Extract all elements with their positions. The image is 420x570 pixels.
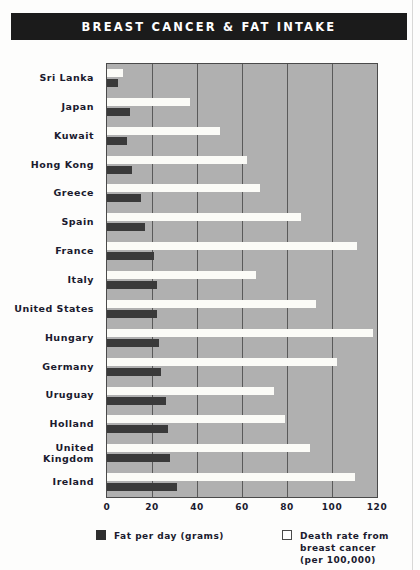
category-label: United States	[0, 303, 100, 314]
bar-death-rate	[107, 444, 310, 452]
category-label: Greece	[0, 187, 100, 198]
category-label: Holland	[0, 418, 100, 429]
value-axis-tick-label: 20	[145, 502, 159, 512]
bar-death-rate	[107, 184, 260, 192]
bar-fat-per-day	[107, 194, 141, 202]
category-label: Uruguay	[0, 389, 100, 400]
category-label: Italy	[0, 274, 100, 285]
bar-fat-per-day	[107, 310, 157, 318]
value-axis-tick-label: 100	[322, 502, 343, 512]
bar-fat-per-day	[107, 137, 127, 145]
bar-fat-per-day	[107, 281, 157, 289]
bar-death-rate	[107, 271, 256, 279]
page-background: BREAST CANCER & FAT INTAKE Sri LankaJapa…	[0, 0, 420, 570]
bar-group	[107, 353, 377, 382]
legend-label-fat: Fat per day (grams)	[114, 530, 224, 542]
category-label: France	[0, 245, 100, 256]
category-label: Spain	[0, 216, 100, 227]
value-axis-tick-label: 60	[235, 502, 249, 512]
bar-group	[107, 468, 377, 497]
category-label: Kuwait	[0, 130, 100, 141]
death-rate-swatch-icon	[282, 530, 292, 540]
value-axis-tick-label: 80	[280, 502, 294, 512]
category-label: United Kingdom	[0, 442, 100, 464]
bar-group	[107, 208, 377, 237]
bar-fat-per-day	[107, 252, 154, 260]
bar-group	[107, 295, 377, 324]
value-axis-tick-label: 120	[367, 502, 388, 512]
category-label: Sri Lanka	[0, 72, 100, 83]
bar-death-rate	[107, 329, 373, 337]
bar-death-rate	[107, 69, 123, 77]
bar-fat-per-day	[107, 454, 170, 462]
bar-death-rate	[107, 156, 247, 164]
bar-death-rate	[107, 358, 337, 366]
legend-item-death-rate: Death rate from breast cancer (per 100,0…	[282, 530, 416, 566]
plot-area	[106, 63, 378, 498]
bar-fat-per-day	[107, 368, 161, 376]
bar-group	[107, 93, 377, 122]
bar-group	[107, 179, 377, 208]
category-label: Japan	[0, 101, 100, 112]
bar-fat-per-day	[107, 483, 177, 491]
bar-death-rate	[107, 98, 190, 106]
legend-label-death-rate: Death rate from breast cancer (per 100,0…	[300, 530, 416, 566]
bar-death-rate	[107, 300, 316, 308]
legend-item-fat: Fat per day (grams)	[96, 530, 224, 542]
category-label: Ireland	[0, 476, 100, 487]
bar-group	[107, 122, 377, 151]
bar-death-rate	[107, 213, 301, 221]
category-label: Germany	[0, 361, 100, 372]
bar-fat-per-day	[107, 108, 130, 116]
bar-group	[107, 410, 377, 439]
category-label: Hong Kong	[0, 159, 100, 170]
bar-fat-per-day	[107, 166, 132, 174]
category-axis-labels: Sri LankaJapanKuwaitHong KongGreeceSpain…	[0, 63, 100, 498]
value-axis: 020406080100120	[106, 502, 378, 516]
bar-group	[107, 266, 377, 295]
bar-death-rate	[107, 415, 285, 423]
fat-swatch-icon	[96, 530, 106, 540]
chart-legend: Fat per day (grams) Death rate from brea…	[96, 528, 416, 562]
bar-fat-per-day	[107, 339, 159, 347]
bar-group	[107, 382, 377, 411]
bar-death-rate	[107, 387, 274, 395]
bar-group	[107, 151, 377, 180]
bar-group	[107, 324, 377, 353]
bar-death-rate	[107, 473, 355, 481]
bar-fat-per-day	[107, 425, 168, 433]
gridline	[377, 64, 378, 497]
bar-fat-per-day	[107, 397, 166, 405]
bar-fat-per-day	[107, 223, 145, 231]
bar-death-rate	[107, 242, 357, 250]
value-axis-tick-label: 40	[190, 502, 204, 512]
bar-fat-per-day	[107, 79, 118, 87]
category-label: Hungary	[0, 332, 100, 343]
bar-group	[107, 439, 377, 468]
bar-death-rate	[107, 127, 220, 135]
value-axis-tick-label: 0	[104, 502, 111, 512]
bar-group	[107, 64, 377, 93]
bar-group	[107, 237, 377, 266]
bar-chart: Sri LankaJapanKuwaitHong KongGreeceSpain…	[0, 0, 420, 570]
